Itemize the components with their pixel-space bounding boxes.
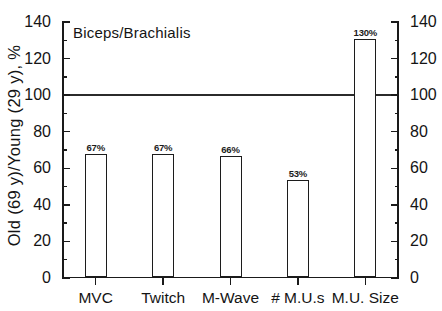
left-axis-minor-tick <box>62 40 67 41</box>
left-axis-tick-label: 0 <box>42 270 51 286</box>
right-axis-major-tick <box>391 277 399 278</box>
right-axis-tick-label: 20 <box>410 233 428 249</box>
left-axis-tick-label: 140 <box>24 14 51 30</box>
left-axis-tick-label: 20 <box>33 233 51 249</box>
x-axis-category-label: Twitch <box>141 290 185 306</box>
bar: 53% <box>287 180 309 277</box>
bar: 67% <box>85 154 107 277</box>
right-axis-major-tick <box>391 94 399 95</box>
y-axis-title-text: Old (69 y)/Young (29 y), % <box>6 44 25 246</box>
left-axis-tick-label: 40 <box>33 197 51 213</box>
left-axis-major-tick <box>62 241 70 242</box>
left-axis-major-tick <box>62 204 70 205</box>
bar-value-label: 67% <box>86 142 104 153</box>
right-axis-major-tick <box>391 168 399 169</box>
left-axis-major-tick <box>62 131 70 132</box>
bar-value-label: 130% <box>354 27 378 38</box>
left-axis-minor-tick <box>62 76 67 77</box>
right-axis-major-tick <box>391 131 399 132</box>
right-axis-major-tick <box>391 204 399 205</box>
plot-area: Biceps/Brachialis 0020204040606080801001… <box>62 22 399 278</box>
right-axis-minor-tick <box>395 76 400 77</box>
left-axis-major-tick <box>62 58 70 59</box>
x-axis-category-label: # M.U.s <box>271 290 324 306</box>
left-axis-major-tick <box>62 21 70 22</box>
left-axis-minor-tick <box>62 259 67 260</box>
x-axis-category-label: M-Wave <box>202 290 259 306</box>
x-axis-category-label: MVC <box>78 290 112 306</box>
x-axis-tick <box>162 278 163 285</box>
bar-value-label: 67% <box>154 142 172 153</box>
reference-line-100 <box>62 94 399 95</box>
left-axis-tick-label: 100 <box>24 87 51 103</box>
right-axis-minor-tick <box>395 259 400 260</box>
left-axis-tick-label: 80 <box>33 124 51 140</box>
left-axis-minor-tick <box>62 149 67 150</box>
right-axis-minor-tick <box>395 40 400 41</box>
bar-value-label: 66% <box>221 144 239 155</box>
right-axis-minor-tick <box>395 149 400 150</box>
x-axis-tick <box>297 278 298 285</box>
plot-title: Biceps/Brachialis <box>73 24 191 41</box>
left-axis-tick-label: 120 <box>24 51 51 67</box>
right-axis-minor-tick <box>395 186 400 187</box>
left-axis-tick-label: 60 <box>33 160 51 176</box>
right-axis-major-tick <box>391 21 399 22</box>
x-axis-tick <box>230 278 231 285</box>
right-axis-tick-label: 40 <box>410 197 428 213</box>
x-axis-tick <box>365 278 366 285</box>
right-axis-tick-label: 100 <box>410 87 437 103</box>
right-axis-major-tick <box>391 58 399 59</box>
right-axis-minor-tick <box>395 113 400 114</box>
bar: 67% <box>152 154 174 277</box>
right-axis-tick-label: 120 <box>410 51 437 67</box>
x-axis-tick <box>95 278 96 285</box>
right-axis-tick-label: 60 <box>410 160 428 176</box>
figure: Old (69 y)/Young (29 y), % Biceps/Brachi… <box>0 0 442 311</box>
left-axis-major-tick <box>62 277 70 278</box>
right-axis-tick-label: 140 <box>410 14 437 30</box>
right-axis-tick-label: 0 <box>410 270 419 286</box>
left-axis-major-tick <box>62 94 70 95</box>
left-axis-minor-tick <box>62 186 67 187</box>
bar-value-label: 53% <box>289 168 307 179</box>
right-axis-minor-tick <box>395 222 400 223</box>
left-axis-minor-tick <box>62 222 67 223</box>
y-axis-title: Old (69 y)/Young (29 y), % <box>0 0 30 290</box>
bar: 130% <box>354 39 376 277</box>
left-axis-major-tick <box>62 168 70 169</box>
left-axis-minor-tick <box>62 113 67 114</box>
right-axis-tick-label: 80 <box>410 124 428 140</box>
right-axis-major-tick <box>391 241 399 242</box>
x-axis-category-label: M.U. Size <box>332 290 399 306</box>
bar: 66% <box>220 156 242 277</box>
